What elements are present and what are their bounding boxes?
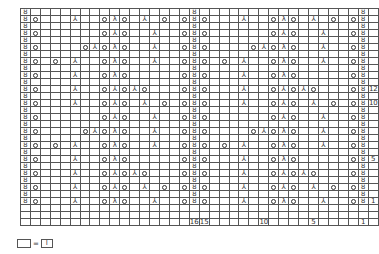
knit-cell bbox=[90, 51, 100, 58]
knit-cell bbox=[249, 149, 259, 156]
knit-cell bbox=[328, 107, 338, 114]
twisted-knit-cell: ȣ bbox=[21, 163, 31, 170]
knit-cell bbox=[348, 107, 358, 114]
yarn-over-icon bbox=[351, 157, 356, 162]
knit-cell bbox=[328, 44, 338, 51]
row-number bbox=[368, 184, 378, 191]
knit-cell bbox=[70, 191, 80, 198]
knit-cell bbox=[319, 37, 329, 44]
yarn-over-cell bbox=[199, 184, 209, 191]
right-decrease-cell: λ bbox=[279, 142, 289, 149]
knit-cell bbox=[50, 184, 60, 191]
knit-cell bbox=[239, 30, 249, 37]
knit-cell bbox=[319, 9, 329, 16]
central-double-decrease-cell: ⅄ bbox=[259, 44, 269, 51]
yarn-over-cell bbox=[289, 86, 299, 93]
yarn-over-icon bbox=[33, 185, 38, 190]
yarn-over-cell bbox=[179, 170, 189, 177]
twisted-knit-cell: ȣ bbox=[21, 23, 31, 30]
central-double-decrease-cell: ⅄ bbox=[239, 72, 249, 79]
central-double-decrease-cell: ⅄ bbox=[319, 198, 329, 205]
knit-cell bbox=[169, 58, 179, 65]
yarn-over-icon bbox=[202, 73, 207, 78]
knit-cell bbox=[269, 79, 279, 86]
knit-cell bbox=[169, 149, 179, 156]
knit-cell bbox=[30, 9, 40, 16]
knit-cell bbox=[60, 37, 70, 44]
knit-cell bbox=[150, 170, 160, 177]
knit-cell bbox=[150, 156, 160, 163]
knit-cell bbox=[299, 156, 309, 163]
knit-cell bbox=[348, 23, 358, 30]
yarn-over-cell bbox=[179, 184, 189, 191]
knit-cell bbox=[179, 79, 189, 86]
knit-cell bbox=[269, 205, 279, 212]
knit-cell bbox=[338, 163, 348, 170]
yarn-over-cell bbox=[348, 198, 358, 205]
twisted-knit-cell: ȣ bbox=[358, 44, 368, 51]
knit-cell bbox=[110, 51, 120, 58]
knit-cell bbox=[259, 86, 269, 93]
knit-cell bbox=[110, 177, 120, 184]
knit-cell bbox=[80, 9, 90, 16]
knit-cell bbox=[90, 156, 100, 163]
knit-cell bbox=[328, 205, 338, 212]
yarn-over-icon bbox=[351, 17, 356, 22]
knit-cell bbox=[160, 135, 170, 142]
central-double-decrease-cell: ⅄ bbox=[299, 170, 309, 177]
row-number bbox=[368, 58, 378, 65]
knit-cell bbox=[259, 16, 269, 23]
yarn-over-cell bbox=[30, 170, 40, 177]
knit-cell bbox=[100, 212, 110, 219]
knit-cell bbox=[319, 86, 329, 93]
yarn-over-icon bbox=[291, 45, 296, 50]
knit-cell bbox=[209, 198, 219, 205]
knit-cell bbox=[259, 100, 269, 107]
knit-cell bbox=[209, 16, 219, 23]
central-double-decrease-cell: ⅄ bbox=[150, 44, 160, 51]
knit-cell bbox=[40, 93, 50, 100]
yarn-over-cell bbox=[269, 44, 279, 51]
knit-cell bbox=[50, 86, 60, 93]
twisted-knit-cell: ȣ bbox=[358, 37, 368, 44]
knit-cell bbox=[30, 23, 40, 30]
knit-cell bbox=[338, 121, 348, 128]
twisted-knit-cell: ȣ bbox=[21, 86, 31, 93]
twisted-knit-cell: ȣ bbox=[21, 170, 31, 177]
yarn-over-icon bbox=[291, 171, 296, 176]
central-double-decrease-cell: ⅄ bbox=[259, 128, 269, 135]
knit-cell bbox=[21, 212, 31, 219]
knit-cell bbox=[150, 65, 160, 72]
knit-cell bbox=[120, 121, 130, 128]
knit-cell bbox=[319, 100, 329, 107]
yarn-over-cell bbox=[348, 156, 358, 163]
knit-cell bbox=[30, 163, 40, 170]
twisted-knit-cell: ȣ bbox=[21, 114, 31, 121]
twisted-knit-cell: ȣ bbox=[189, 9, 199, 16]
knit-cell bbox=[289, 149, 299, 156]
knit-cell bbox=[50, 93, 60, 100]
yarn-over-cell bbox=[199, 16, 209, 23]
knit-cell bbox=[299, 65, 309, 72]
chart-row: ȣ⅄⅄⅄ȣ⅄⅄⅄ȣ bbox=[21, 170, 379, 177]
knit-cell bbox=[169, 44, 179, 51]
knit-cell bbox=[219, 135, 229, 142]
knit-cell bbox=[100, 23, 110, 30]
knit-cell bbox=[229, 65, 239, 72]
knit-cell bbox=[90, 65, 100, 72]
yarn-over-icon bbox=[122, 171, 127, 176]
knit-cell bbox=[229, 93, 239, 100]
knit-cell bbox=[199, 9, 209, 16]
knit-cell bbox=[249, 30, 259, 37]
knit-cell bbox=[279, 163, 289, 170]
chart-row: ȣ⅄⅄⅄ȣ⅄⅄⅄ȣ10 bbox=[21, 100, 379, 107]
knit-cell bbox=[249, 93, 259, 100]
yarn-over-cell bbox=[120, 16, 130, 23]
knit-cell bbox=[309, 30, 319, 37]
knit-cell bbox=[338, 170, 348, 177]
row-number: 1 bbox=[368, 198, 378, 205]
twisted-knit-cell: ȣ bbox=[189, 44, 199, 51]
knit-cell bbox=[169, 65, 179, 72]
twisted-knit-cell: ȣ bbox=[21, 65, 31, 72]
knit-cell bbox=[179, 65, 189, 72]
